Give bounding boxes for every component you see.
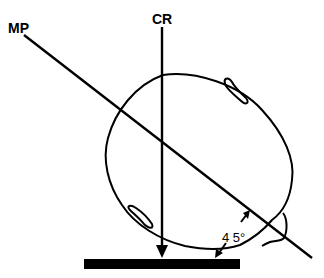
mp-label: MP <box>8 20 29 36</box>
mp-line <box>24 35 312 258</box>
cr-arrowhead-icon <box>156 245 168 258</box>
positioning-diagram: MP CR 4 5° <box>0 0 324 278</box>
cr-label: CR <box>152 11 172 27</box>
image-receptor-bar <box>84 259 240 269</box>
angle-label: 4 5° <box>222 230 245 245</box>
